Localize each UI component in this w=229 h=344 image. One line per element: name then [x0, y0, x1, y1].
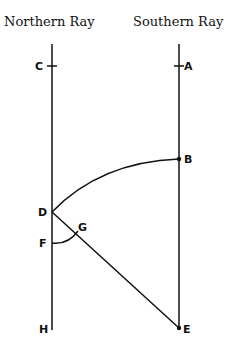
- label-e: E: [183, 323, 191, 336]
- point-b-dot: [177, 157, 181, 161]
- line-de: [52, 212, 179, 328]
- label-f: F: [39, 237, 47, 250]
- label-c: C: [35, 60, 43, 73]
- label-h: H: [39, 323, 48, 336]
- arc-db: [52, 159, 179, 212]
- label-d: D: [38, 206, 47, 219]
- label-g: G: [78, 221, 87, 234]
- label-a: A: [184, 60, 193, 73]
- ray-diagram: C A B D G F H E: [0, 0, 229, 344]
- point-e-dot: [177, 326, 181, 330]
- label-b: B: [184, 153, 192, 166]
